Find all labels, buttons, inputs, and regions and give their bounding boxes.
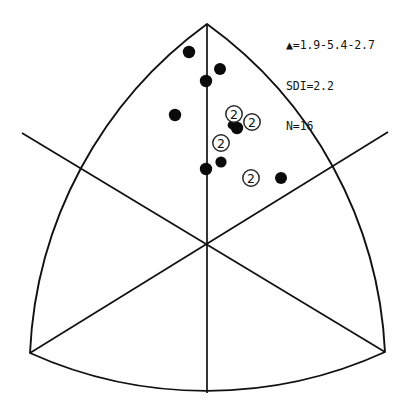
- multi-point-marker[interactable]: 2: [226, 106, 242, 122]
- multi-point-label: 2: [230, 107, 238, 122]
- figure-root: 2 2 2 2 ▲=1.9-5.4-2.7 SDI=2.2 N=16: [0, 0, 409, 414]
- multi-point-marker[interactable]: 2: [243, 170, 259, 186]
- legend-mean-line: ▲=1.9-5.4-2.7: [286, 39, 375, 53]
- multi-point-marker[interactable]: 2: [213, 135, 229, 151]
- legend-annotation-block: ▲=1.9-5.4-2.7 SDI=2.2 N=16: [286, 12, 375, 161]
- multi-point-marker[interactable]: 2: [244, 114, 260, 130]
- data-point[interactable]: [215, 156, 226, 167]
- multi-point-label: 2: [248, 115, 256, 130]
- data-point[interactable]: [200, 163, 212, 175]
- data-point[interactable]: [169, 109, 181, 121]
- legend-n-line: N=16: [286, 120, 375, 134]
- data-point[interactable]: [214, 63, 226, 75]
- multi-point-label: 2: [217, 136, 225, 151]
- legend-sdi-line: SDI=2.2: [286, 80, 375, 94]
- data-point[interactable]: [183, 46, 195, 58]
- data-point[interactable]: [200, 75, 212, 87]
- data-point[interactable]: [275, 172, 287, 184]
- multi-point-label: 2: [247, 171, 255, 186]
